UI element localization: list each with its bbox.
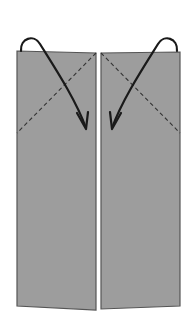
origami-diagram xyxy=(0,0,185,323)
right-flap xyxy=(101,52,180,309)
left-flap xyxy=(17,51,96,310)
